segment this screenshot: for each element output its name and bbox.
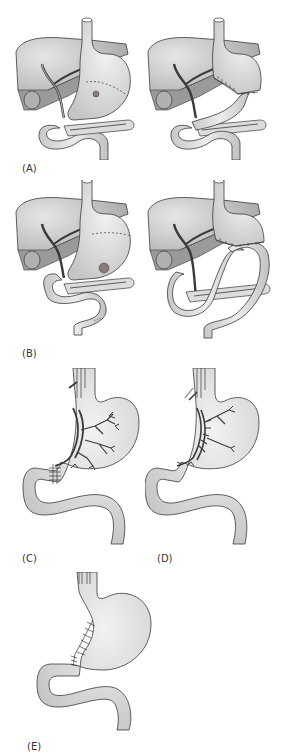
panel-b-left — [8, 180, 138, 340]
label-a: (A) — [22, 163, 37, 174]
panel-c — [15, 368, 140, 548]
diagram-a-postop — [140, 10, 280, 160]
diagram-a-preop — [8, 10, 138, 160]
diagram-d-vagotomy — [145, 368, 275, 548]
label-e: (E) — [27, 741, 41, 752]
panel-a-left — [8, 10, 138, 160]
diagram-b-postop — [140, 180, 280, 340]
label-d: (D) — [157, 553, 173, 564]
panel-d — [145, 368, 275, 548]
panel-e — [35, 572, 165, 732]
panel-b-right — [140, 180, 280, 340]
diagram-e-sutured-stomach — [35, 572, 165, 732]
label-b: (B) — [22, 348, 37, 359]
panel-a-right — [140, 10, 280, 160]
diagram-b-preop — [8, 180, 138, 340]
diagram-c-pyloroplasty — [15, 368, 140, 548]
label-c: (C) — [22, 553, 37, 564]
